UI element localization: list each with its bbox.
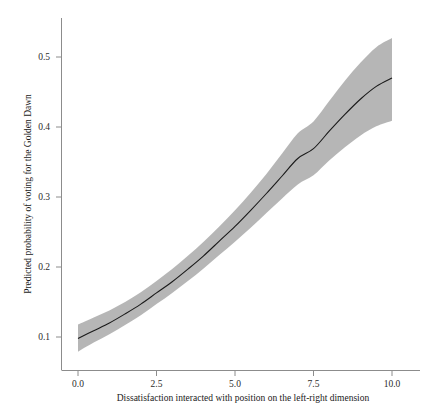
y-axis-tick-labels: 0.10.20.30.40.5 xyxy=(38,52,50,342)
x-axis-title: Dissatisfaction interacted with position… xyxy=(117,393,370,403)
y-axis-title: Predicted probability of voting for the … xyxy=(23,94,33,294)
confidence-band xyxy=(78,38,392,352)
x-axis-tick-label: 7.5 xyxy=(308,379,320,389)
y-axis-tick-label: 0.2 xyxy=(38,262,50,272)
confidence-band-group xyxy=(78,38,392,352)
x-axis-tick-label: 5.0 xyxy=(229,379,241,389)
y-axis-tick-label: 0.4 xyxy=(38,122,50,132)
predicted-probability-chart: 0.10.20.30.40.5 0.02.55.07.510.0 Dissati… xyxy=(0,0,425,420)
y-axis-tick-label: 0.1 xyxy=(38,332,50,342)
x-axis-tick-label: 2.5 xyxy=(151,379,163,389)
x-axis-tick-label: 0.0 xyxy=(72,379,84,389)
x-axis-tick-labels: 0.02.55.07.510.0 xyxy=(72,379,401,389)
y-axis-ticks xyxy=(56,57,62,337)
y-axis-tick-label: 0.5 xyxy=(38,52,50,62)
x-axis-tick-label: 10.0 xyxy=(384,379,401,389)
x-axis-ticks xyxy=(78,371,392,377)
y-axis-tick-label: 0.3 xyxy=(38,192,50,202)
figure-container: 0.10.20.30.40.5 0.02.55.07.510.0 Dissati… xyxy=(0,0,425,420)
